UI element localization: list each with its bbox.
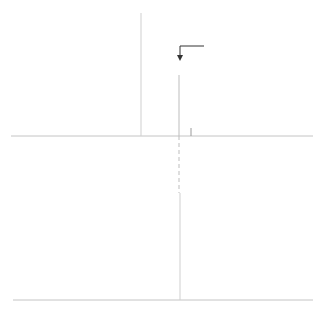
truncation-arrow-line [180, 46, 204, 56]
arrow-head-icon [177, 55, 183, 61]
caption [10, 145, 13, 157]
truncation-selection-diagram [0, 0, 322, 321]
